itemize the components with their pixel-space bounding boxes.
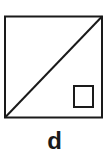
right-angle-marker xyxy=(74,86,93,107)
diagonal-line xyxy=(5,17,102,118)
figure-label: d xyxy=(0,128,109,154)
